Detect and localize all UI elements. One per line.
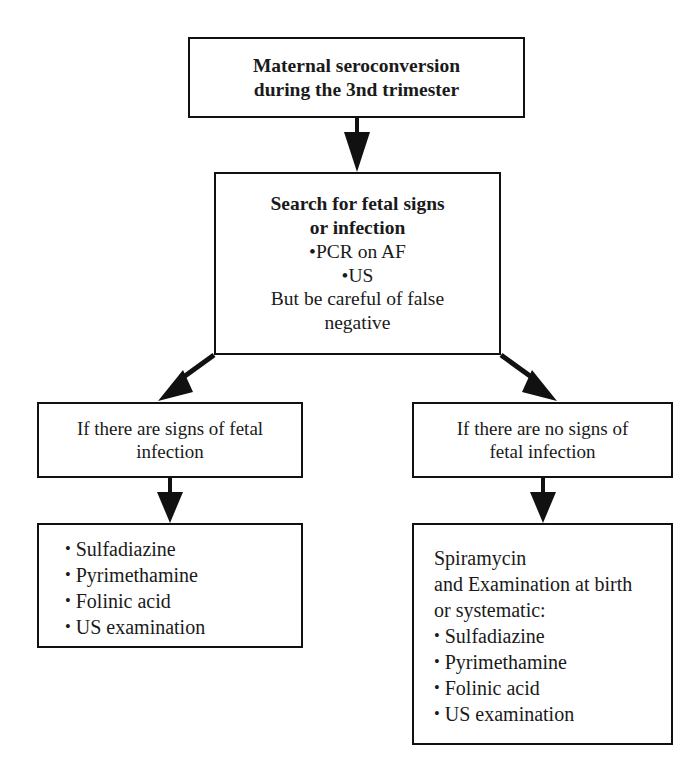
connector-search-to-branches xyxy=(158,355,557,401)
node-top-line-1: Maternal seroconversion xyxy=(253,54,460,78)
connector-negative-to-treatment xyxy=(530,478,556,523)
node-search-bullet-1-label: PCR on AF xyxy=(316,241,406,262)
node-search-bullet-2-label: US xyxy=(348,265,373,286)
treat-right-bullet-3-label: Folinic acid xyxy=(445,677,540,699)
treat-left-bullet-3-label: Folinic acid xyxy=(76,590,171,612)
treat-right-line-3: or systematic: xyxy=(434,597,671,623)
connector-top-to-search xyxy=(344,118,370,172)
node-signs-line-2: infection xyxy=(136,440,204,463)
node-signs-of-fetal-infection: If there are signs of fetal infection xyxy=(37,402,303,478)
connector-positive-to-treatment xyxy=(157,478,183,523)
treat-right-bullet-4: •US examination xyxy=(434,701,671,727)
node-maternal-seroconversion: Maternal seroconversion during the 3nd t… xyxy=(188,37,525,118)
treat-left-bullet-4-label: US examination xyxy=(76,616,205,638)
node-search-heading-1: Search for fetal signs xyxy=(270,192,444,216)
node-no-signs-of-fetal-infection: If there are no signs of fetal infection xyxy=(412,402,673,478)
bullet-icon: • xyxy=(434,704,440,723)
node-search-heading-2: or infection xyxy=(310,216,406,240)
bullet-icon: • xyxy=(65,591,71,610)
bullet-icon: • xyxy=(434,678,440,697)
treat-right-line-2: and Examination at birth xyxy=(434,571,671,597)
treat-left-bullet-3: •Folinic acid xyxy=(65,588,301,614)
node-search-footer-1: But be careful of false xyxy=(271,287,444,311)
node-search-bullet-1: •PCR on AF xyxy=(309,240,406,264)
treat-right-bullet-1: •Sulfadiazine xyxy=(434,623,671,649)
node-search-bullet-2: •US xyxy=(342,264,374,288)
flowchart-canvas: Maternal seroconversion during the 3nd t… xyxy=(0,0,694,776)
treat-right-bullet-4-label: US examination xyxy=(445,703,574,725)
bullet-icon: • xyxy=(434,626,440,645)
treat-left-bullet-4: •US examination xyxy=(65,614,301,640)
node-nosigns-line-1: If there are no signs of xyxy=(457,417,628,440)
treat-right-bullet-3: •Folinic acid xyxy=(434,675,671,701)
bullet-icon: • xyxy=(309,241,316,262)
bullet-icon: • xyxy=(65,617,71,636)
treat-left-bullet-2: •Pyrimethamine xyxy=(65,562,301,588)
treat-left-bullet-1: •Sulfadiazine xyxy=(65,536,301,562)
node-signs-line-1: If there are signs of fetal xyxy=(77,417,263,440)
treat-right-line-1: Spiramycin xyxy=(434,545,671,571)
node-search-footer-2: negative xyxy=(324,311,390,335)
treat-right-bullet-2: •Pyrimethamine xyxy=(434,649,671,675)
treat-right-bullet-1-label: Sulfadiazine xyxy=(445,625,545,647)
treat-right-bullet-2-label: Pyrimethamine xyxy=(445,651,567,673)
treat-left-bullet-1-label: Sulfadiazine xyxy=(76,538,176,560)
bullet-icon: • xyxy=(65,539,71,558)
node-treatment-if-no-signs: Spiramycin and Examination at birth or s… xyxy=(412,523,673,745)
node-top-line-2: during the 3nd trimester xyxy=(254,78,459,102)
treat-left-bullet-2-label: Pyrimethamine xyxy=(76,564,198,586)
node-nosigns-line-2: fetal infection xyxy=(489,440,595,463)
bullet-icon: • xyxy=(434,652,440,671)
bullet-icon: • xyxy=(65,565,71,584)
node-treatment-if-signs: •Sulfadiazine •Pyrimethamine •Folinic ac… xyxy=(37,523,303,648)
node-search-fetal-signs: Search for fetal signs or infection •PCR… xyxy=(214,172,501,355)
